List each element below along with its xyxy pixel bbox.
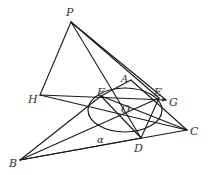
label-o: O (121, 103, 130, 116)
label-g: G (169, 96, 178, 109)
label-p: P (65, 6, 74, 19)
label-b: B (8, 157, 17, 170)
segment-bd (20, 138, 141, 160)
label-h: H (27, 93, 38, 106)
label-e: E (153, 86, 162, 99)
segment-ph (40, 22, 71, 95)
geometry-diagram: P H A F E G O D C B α (0, 0, 210, 175)
angle-alpha-label: α (97, 134, 104, 145)
label-a: A (120, 73, 128, 84)
label-f: F (96, 86, 105, 99)
label-d: D (133, 142, 143, 155)
label-c: C (190, 125, 199, 138)
